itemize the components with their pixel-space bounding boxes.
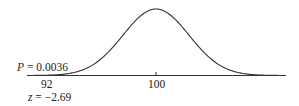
z-score-text: = −2.69 xyxy=(32,91,71,103)
z-score-label: z = −2.69 xyxy=(28,92,71,104)
tick-label-92: 92 xyxy=(41,79,53,91)
p-symbol: P xyxy=(17,61,24,73)
p-value-text: = 0.0036 xyxy=(24,61,68,73)
p-value-label: P = 0.0036 xyxy=(17,62,68,74)
tick-label-100: 100 xyxy=(148,79,165,91)
